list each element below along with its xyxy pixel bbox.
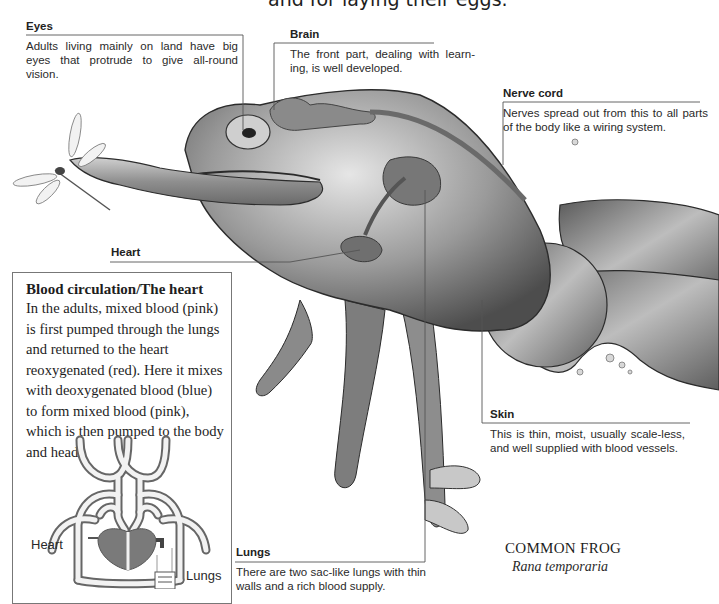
label-skin-body: This is thin, moist, usually scale-less,… — [490, 427, 685, 455]
label-nerve-cord-title: Nerve cord — [503, 87, 563, 99]
species-common-name: COMMON FROG — [505, 540, 621, 557]
diagram-label-lungs: Lungs — [186, 568, 221, 583]
diagram-label-heart: Heart — [31, 537, 63, 552]
label-eyes-title: Eyes — [26, 20, 53, 32]
label-heart-title: Heart — [111, 246, 140, 258]
label-brain-body: The front part, dealing with learn-ing, … — [290, 47, 475, 75]
lung-organ — [383, 157, 441, 205]
species-scientific-name: Rana temporaria — [512, 559, 608, 575]
label-eyes-body: Adults living mainly on land have big ey… — [26, 39, 238, 81]
label-lungs-body: There are two sac-like lungs with thin w… — [236, 565, 426, 593]
label-nerve-cord-body: Nerves spread out from this to all parts… — [503, 106, 708, 134]
front-legs — [256, 300, 480, 533]
label-brain-title: Brain — [290, 28, 319, 40]
blood-circulation-body: In the adults, mixed blood (pink) is fir… — [26, 298, 226, 462]
blood-circulation-title: Blood circulation/The heart — [26, 281, 203, 298]
label-lungs-title: Lungs — [236, 546, 271, 558]
label-skin-title: Skin — [490, 408, 514, 420]
